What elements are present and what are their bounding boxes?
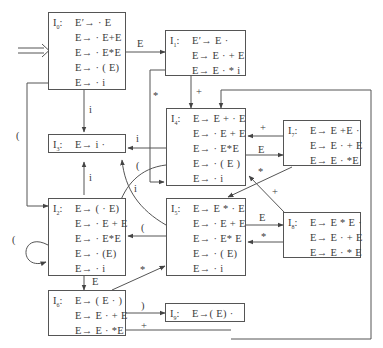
item: E→ · E+E <box>75 30 122 45</box>
edge-label-I5-I3: i <box>134 183 137 195</box>
item: E→ · E* E <box>193 231 242 246</box>
item: E→ · ( E ) <box>193 156 240 171</box>
edge-I0-I2 <box>27 83 48 206</box>
item: E→ E · * E <box>310 245 362 260</box>
edge-label-I0-I1: E <box>137 38 143 50</box>
edge-label-I2-I3: i <box>89 172 92 184</box>
item: E→ · (E) <box>75 246 116 261</box>
state-I3: I3:E→ i · <box>48 134 126 153</box>
item: E→ i · <box>75 137 105 152</box>
edge-label-I4-I7: E <box>258 144 264 156</box>
state-I1: I1:E′→ E · E→ E · + E E→ E · * i <box>165 30 246 76</box>
item: E→ E +E · <box>310 123 360 138</box>
state-I2: I2:E→ ( · E) E→ · E + E E→ · E*E E→ · (E… <box>48 198 126 276</box>
edge-I8-I4-diag <box>249 176 285 213</box>
state-I9: I9:E→( E) · <box>165 303 245 322</box>
edge-label-I0-I3: i <box>89 104 92 116</box>
state-I0: I0:E′→ · E E→ · E+E E→ · E*E E→ · ( E) E… <box>48 12 126 90</box>
edge-label-I6-I5: * <box>140 264 145 276</box>
edge-I2-self <box>26 242 48 264</box>
edge-label-I7-I4: + <box>260 122 266 134</box>
item: E→ E · + E <box>75 308 128 323</box>
state-I5: I5:E→ E * · E E→ · E + E E→ · E* E E→ · … <box>166 198 246 276</box>
edge-label-I8-I4: + <box>272 186 278 198</box>
item: E→( E) · <box>192 306 233 321</box>
edge-label-I1-I5: * <box>153 90 158 102</box>
item: E→ E · *E <box>310 153 359 168</box>
edge-label-I1-I4: + <box>196 86 202 98</box>
item: E→ E + · E <box>193 111 246 126</box>
item: E→ · i <box>75 75 105 90</box>
state-I4: I4:E→ E + · E E→ · E + E E→ · E*E E→ · (… <box>166 108 246 186</box>
edge-label-I8-I5: * <box>261 231 266 243</box>
item: E→ · E*E <box>75 45 121 60</box>
item: E→ · E + E <box>193 216 246 231</box>
edge-label-I2-self: ( <box>12 234 16 246</box>
item: E→ E * · E <box>193 201 245 216</box>
state-I6: I6:E→ ( E · ) E→ E · + E E→ E · *E <box>48 290 126 336</box>
edge-label-I6-I4: + <box>141 320 147 332</box>
item: E→ E · *E <box>75 323 124 338</box>
edge-label-I0-I2: ( <box>16 130 20 142</box>
state-I8: I8:E→ E * E · E→ E · + E E→ E · * E <box>283 212 361 258</box>
item: E→ E · + E <box>310 230 363 245</box>
edge-label-I7-I5: * <box>258 166 263 178</box>
item: E→ · E*E <box>75 231 121 246</box>
item: E′→ · E <box>75 15 111 30</box>
edge-label-I5-I8: E <box>259 212 265 224</box>
item: E′→ E · <box>192 33 228 48</box>
item: E→ · E + E <box>193 126 246 141</box>
item: E→ · i <box>75 261 105 276</box>
item: E→ · i <box>193 171 223 186</box>
edge-label-I4-I2: ( <box>136 160 140 172</box>
item: E→ E · + E <box>310 138 363 153</box>
item: E→ ( · E) <box>75 201 119 216</box>
state-I7: I7:E→ E +E · E→ E · + E E→ E · *E <box>283 120 361 166</box>
edge-label-I5-I2: ( <box>141 222 145 234</box>
item: E→ · i <box>193 261 223 276</box>
item: E→ · ( E) <box>75 60 119 75</box>
item: E→ · ( E) <box>193 246 237 261</box>
item: E→ E · * i <box>192 63 241 78</box>
edge-label-I6-I9: ) <box>141 300 145 312</box>
edge-label-I2-I6: E <box>92 276 98 288</box>
item: E→ · E*E <box>193 141 239 156</box>
state-label: I0: <box>53 15 75 30</box>
edge-I5-I3 <box>122 160 166 225</box>
item: E→ · E + E <box>75 216 128 231</box>
item: E→ ( E · ) <box>75 293 122 308</box>
edge-label-I4-I3: i <box>136 133 139 145</box>
item: E→ E · + E <box>192 48 245 63</box>
item: E→ E * E · <box>310 215 362 230</box>
